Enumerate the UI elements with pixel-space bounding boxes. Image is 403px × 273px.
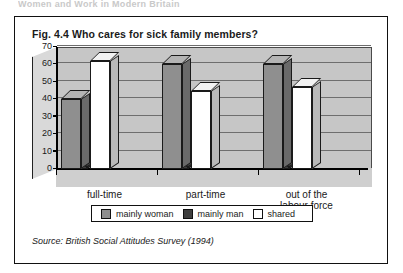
bar-full-time-mainly-woman <box>61 99 81 169</box>
y-tick-label: 20 <box>32 129 52 138</box>
x-tick <box>157 170 158 175</box>
legend-label: mainly man <box>198 209 244 219</box>
x-category-label: full-time <box>49 189 160 200</box>
y-tick-label: 60 <box>32 59 52 68</box>
y-tick <box>53 46 57 47</box>
bar-part-time-mainly-woman <box>162 64 182 169</box>
y-tick <box>53 63 57 64</box>
bar-front-face <box>191 91 211 169</box>
x-category-line: full-time <box>49 189 160 200</box>
bar-front-face <box>292 87 312 169</box>
running-head: Women and Work in Modern Britain <box>18 0 348 10</box>
y-tick <box>53 81 57 82</box>
legend-item: shared <box>253 209 296 219</box>
figure-number: Fig. 4.4 <box>32 28 69 40</box>
y-tick <box>53 168 57 169</box>
chart-floor <box>56 168 372 187</box>
bar-side-face <box>110 55 119 169</box>
legend-swatch <box>101 209 111 219</box>
legend-item: mainly woman <box>101 209 174 219</box>
figure-page: Women and Work in Modern Britain Fig. 4.… <box>0 0 403 273</box>
legend-swatch <box>183 209 193 219</box>
x-tick <box>56 170 57 175</box>
y-tick <box>53 150 57 151</box>
source-note: Source: British Social Attitudes Survey … <box>32 236 214 246</box>
legend-label: mainly woman <box>116 209 174 219</box>
x-tick <box>359 170 360 175</box>
x-tick <box>258 170 259 175</box>
chart-legend: mainly womanmainly manshared <box>91 205 313 222</box>
bar-side-face <box>312 81 321 169</box>
figure-title-text: Who cares for sick family members? <box>72 28 258 40</box>
bar-full-time-shared <box>90 61 110 169</box>
y-tick-label: 30 <box>32 112 52 121</box>
bar-chart: 010203040506070 full-timepart-timeout of… <box>32 47 372 187</box>
bar-part-time-shared <box>191 91 211 169</box>
y-tick <box>53 115 57 116</box>
source-text: British Social Attitudes Survey (1994) <box>66 236 214 246</box>
y-tick-label: 10 <box>32 147 52 156</box>
bar-side-face <box>283 58 292 169</box>
bar-side-face <box>211 85 220 169</box>
bar-side-face <box>81 93 90 169</box>
legend-item: mainly man <box>183 209 244 219</box>
figure-box: Fig. 4.4 Who cares for sick family membe… <box>14 16 388 264</box>
y-tick-label: 0 <box>32 164 52 173</box>
legend-label: shared <box>268 209 296 219</box>
bar-front-face <box>263 64 283 169</box>
y-tick <box>53 98 57 99</box>
x-category-line: out of the <box>251 189 362 200</box>
y-tick <box>53 133 57 134</box>
y-tick-label: 70 <box>32 42 52 51</box>
bar-front-face <box>61 99 81 169</box>
figure-title: Fig. 4.4 Who cares for sick family membe… <box>32 28 258 40</box>
bar-front-face <box>162 64 182 169</box>
gridline <box>57 45 371 46</box>
y-tick-label: 40 <box>32 94 52 103</box>
y-tick-label: 50 <box>32 77 52 86</box>
bar-out-of-the-labour-force-shared <box>292 87 312 169</box>
bar-side-face <box>182 58 191 169</box>
x-category-line: part-time <box>150 189 261 200</box>
bar-front-face <box>90 61 110 169</box>
source-prefix: Source: <box>32 236 63 246</box>
legend-swatch <box>253 209 263 219</box>
x-category-label: part-time <box>150 189 261 200</box>
bar-out-of-the-labour-force-mainly-woman <box>263 64 283 169</box>
